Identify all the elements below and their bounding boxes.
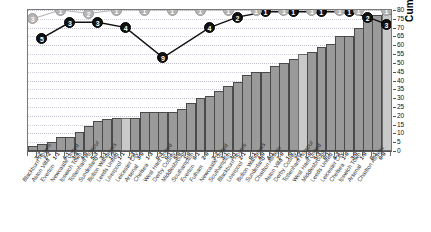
y-tick-label: 35: [397, 86, 404, 93]
data-point-marker[interactable]: 1: [139, 9, 150, 16]
y-tick-label: 40: [397, 78, 404, 85]
y-tick-label: 65: [397, 33, 404, 40]
x-tick-score: 2-0: [201, 151, 210, 161]
y-tick-mark: [393, 125, 396, 126]
y-tick-mark: [393, 72, 396, 73]
y-tick-mark: [393, 63, 396, 64]
y-tick-label: 15: [397, 122, 404, 129]
x-tick-score: 0-0: [378, 151, 387, 161]
x-tick-score: 1-0: [359, 151, 368, 161]
data-point-marker[interactable]: 3: [381, 19, 392, 30]
y-tick-mark: [393, 19, 396, 20]
y-tick-label: 50: [397, 60, 404, 67]
data-point-marker[interactable]: 1: [167, 9, 178, 16]
x-tick-score: 2-1: [238, 151, 247, 161]
y-tick-mark: [393, 36, 396, 37]
y-tick-mark: [393, 28, 396, 29]
cumulative-points-chart: 533494211112331211111111111 051015202530…: [0, 0, 431, 232]
x-tick-score: 1-1: [117, 151, 126, 161]
y-tick-mark: [393, 10, 396, 11]
y-tick-label: 5: [397, 139, 401, 146]
y-tick-label: 55: [397, 51, 404, 58]
data-point-marker[interactable]: 2: [232, 12, 243, 23]
y-tick-mark: [393, 81, 396, 82]
y-tick-label: 20: [397, 113, 404, 120]
data-point-marker[interactable]: 1: [251, 9, 262, 16]
y-tick-mark: [393, 133, 396, 134]
x-tick-mark: [390, 152, 391, 156]
y-tick-label: 45: [397, 69, 404, 76]
y-tick-label: 70: [397, 25, 404, 32]
y-axis: 05101520253035404550556065707580: [393, 0, 413, 160]
y-tick-label: 10: [397, 130, 404, 137]
x-tick-score: 1-1: [52, 151, 61, 161]
y-tick-mark: [393, 45, 396, 46]
data-point-marker[interactable]: 1: [195, 9, 206, 16]
y-tick-mark: [393, 89, 396, 90]
y-tick-label: 60: [397, 42, 404, 49]
y-tick-mark: [393, 142, 396, 143]
x-axis-labels: 3-2Blackburn Rovers2-2Aston Villa1-1Ever…: [0, 152, 431, 232]
x-tick-mark: [27, 152, 28, 156]
data-point-marker[interactable]: 1: [223, 9, 234, 16]
plot-area: 533494211112331211111111111: [27, 9, 392, 152]
y-tick-mark: [393, 107, 396, 108]
y-axis-title: Cumulative Points: [404, 0, 415, 22]
y-tick-mark: [393, 98, 396, 99]
data-point-marker[interactable]: 1: [381, 9, 392, 16]
y-tick-mark: [393, 116, 396, 117]
y-tick-mark: [393, 54, 396, 55]
y-tick-label: 30: [397, 95, 404, 102]
data-point-marker[interactable]: 2: [362, 12, 373, 23]
y-tick-label: 25: [397, 104, 404, 111]
x-tick-score: 1-3: [145, 151, 154, 161]
